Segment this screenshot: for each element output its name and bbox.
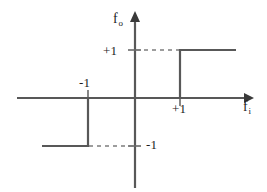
x-axis-label-subscript: i (248, 106, 251, 116)
x-tick-label-plus-one: +1 (172, 102, 186, 115)
plot-canvas (0, 0, 267, 192)
y-axis-label-subscript: o (118, 18, 123, 28)
x-axis-label: fi (243, 100, 251, 114)
y-axis-label: fo (113, 12, 123, 26)
y-tick-label-plus-one: +1 (103, 44, 117, 57)
transfer-function-figure: fo fi +1 -1 -1 +1 (0, 0, 267, 192)
x-tick-label-minus-one: -1 (79, 76, 90, 89)
y-tick-label-minus-one: -1 (146, 138, 157, 151)
y-axis-arrowhead (130, 11, 140, 22)
